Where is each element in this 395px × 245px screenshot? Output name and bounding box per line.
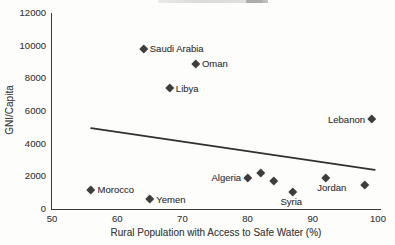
trend-line-layer bbox=[0, 0, 395, 245]
trend-line bbox=[91, 128, 375, 170]
scatter-chart-figure: GNI/Capita Rural Population with Access … bbox=[0, 0, 395, 245]
